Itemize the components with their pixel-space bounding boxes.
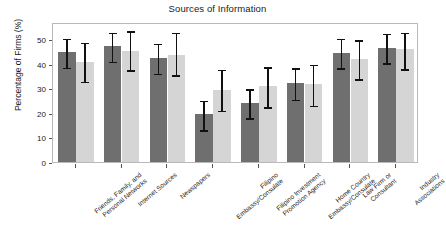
- x-tick-mark: [304, 164, 305, 168]
- error-bar-cap: [383, 34, 391, 36]
- error-bar-cap: [337, 68, 345, 70]
- error-bar-line: [84, 43, 86, 84]
- error-bar-cap: [401, 69, 409, 71]
- bar-group: [99, 24, 145, 162]
- error-bar-cap: [383, 63, 391, 65]
- bar-group: [328, 24, 374, 162]
- error-bar-cap: [264, 67, 272, 69]
- x-tick-mark: [121, 164, 122, 168]
- error-bar-cap: [200, 101, 208, 103]
- error-bar-line: [267, 67, 269, 109]
- error-bar-cap: [154, 44, 162, 46]
- y-tick-label: 10: [24, 134, 46, 143]
- error-bar-cap: [337, 39, 345, 41]
- error-bar-line: [221, 70, 223, 113]
- error-bar-cap: [292, 100, 300, 102]
- error-bar-cap: [127, 70, 135, 72]
- error-bar-line: [158, 44, 160, 76]
- bar-group: [373, 24, 419, 162]
- error-bar-cap: [355, 79, 363, 81]
- bar-group: [236, 24, 282, 162]
- error-bar-line: [341, 39, 343, 70]
- y-axis-label: Percentage of Firms (%): [13, 0, 23, 135]
- x-tick-mark: [349, 164, 350, 168]
- error-bar-cap: [200, 130, 208, 132]
- error-bar-cap: [264, 107, 272, 109]
- bar-group: [53, 24, 99, 162]
- y-tick-mark: [49, 163, 52, 164]
- error-bar-cap: [218, 111, 226, 113]
- error-bar-line: [404, 33, 406, 71]
- bar-group: [145, 24, 191, 162]
- bar-group: [190, 24, 236, 162]
- error-bar-line: [130, 31, 132, 72]
- error-bar-cap: [127, 31, 135, 33]
- error-bar-line: [66, 39, 68, 69]
- error-bar-line: [386, 34, 388, 65]
- error-bar-cap: [355, 40, 363, 42]
- error-bar-line: [249, 89, 251, 120]
- x-tick-mark: [75, 164, 76, 168]
- chart-title: Sources of Information: [0, 3, 435, 14]
- x-tick-label: FilipinoEmbassy/Consulate: [230, 171, 285, 220]
- error-bar-cap: [63, 68, 71, 70]
- error-bar-line: [313, 65, 315, 108]
- error-bar-line: [176, 33, 178, 77]
- x-tick-label: Newspapers: [179, 171, 212, 200]
- bar: [378, 48, 396, 162]
- error-bar-cap: [109, 62, 117, 64]
- x-tick-label: Friends, Family, andPersonal Networks: [93, 171, 148, 221]
- error-bar-line: [112, 33, 114, 64]
- x-tick-mark: [212, 164, 213, 168]
- y-tick-label: 0: [24, 159, 46, 168]
- error-bar-cap: [401, 33, 409, 35]
- plot-area: [52, 23, 418, 163]
- error-bar-cap: [246, 89, 254, 91]
- error-bar-line: [295, 68, 297, 101]
- x-tick-mark: [166, 164, 167, 168]
- error-bar-cap: [172, 75, 180, 77]
- x-tick-label: Filipino InvestmentPromotion Agency: [275, 171, 327, 218]
- error-bar-cap: [81, 82, 89, 84]
- error-bar-cap: [63, 39, 71, 41]
- error-bar-cap: [154, 74, 162, 76]
- error-bar-cap: [246, 118, 254, 120]
- x-tick-mark: [395, 164, 396, 168]
- error-bar-cap: [310, 106, 318, 108]
- error-bar-line: [359, 40, 361, 80]
- x-tick-mark: [258, 164, 259, 168]
- bar-group: [282, 24, 328, 162]
- y-tick-label: 40: [24, 60, 46, 69]
- y-tick-label: 50: [24, 36, 46, 45]
- x-tick-label: IndustryAssociations: [408, 171, 446, 206]
- error-bar-cap: [172, 33, 180, 35]
- error-bar-line: [203, 101, 205, 132]
- error-bar-cap: [218, 70, 226, 72]
- error-bar-cap: [81, 43, 89, 45]
- y-tick-label: 30: [24, 85, 46, 94]
- error-bar-cap: [109, 33, 117, 35]
- error-bar-cap: [292, 68, 300, 70]
- y-tick-label: 20: [24, 109, 46, 118]
- bar: [104, 46, 122, 162]
- error-bar-cap: [310, 65, 318, 67]
